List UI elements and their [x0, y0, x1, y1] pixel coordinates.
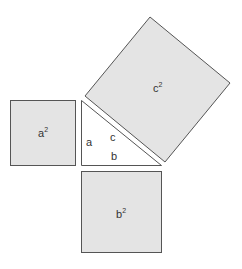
side-label-b: b — [111, 150, 117, 162]
pythagorean-diagram: c2 a2 a c b b2 — [0, 0, 242, 269]
side-label-a: a — [86, 136, 93, 148]
side-label-c: c — [110, 131, 116, 143]
